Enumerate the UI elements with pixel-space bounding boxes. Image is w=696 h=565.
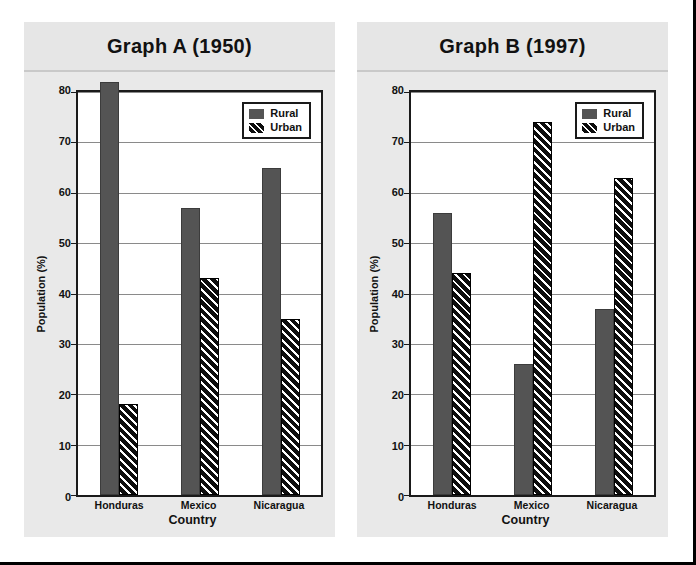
- graph-b-ytick-label: 50: [392, 237, 404, 248]
- graph-a-tick-mark: [71, 142, 77, 143]
- graph-a-bar-group: [181, 92, 219, 495]
- graph-a-tick-mark: [71, 495, 77, 496]
- graph-a-plot: RuralUrban: [76, 90, 323, 497]
- legend-item-rural: Rural: [249, 108, 302, 119]
- graph-b-tick-mark: [404, 344, 410, 345]
- graph-a-body: Population (%) 01020304050607080 RuralUr…: [24, 72, 335, 537]
- legend-swatch-rural-icon: [582, 109, 597, 119]
- graph-a-xaxis-title-row: Country: [32, 513, 323, 531]
- graph-b-tick-mark: [404, 142, 410, 143]
- graph-a-plot-wrap: RuralUrban: [76, 90, 323, 497]
- legend-swatch-urban-icon: [249, 123, 264, 133]
- graph-a-tick-mark: [71, 344, 77, 345]
- graph-b-xticks: HondurasMexicoNicaragua: [409, 497, 656, 513]
- graph-a-tick-mark: [71, 193, 77, 194]
- graph-b-ytick-label: 80: [392, 85, 404, 96]
- bar-nicaragua-rural: [595, 309, 614, 495]
- bar-honduras-urban: [119, 404, 138, 495]
- graph-b-bars: [411, 92, 654, 495]
- graph-a-y-axis-label: Population (%): [35, 255, 47, 332]
- graph-b-x-axis-label: Country: [365, 513, 656, 531]
- graph-a-ytick-label: 20: [59, 390, 71, 401]
- graph-b-body: Population (%) 01020304050607080 RuralUr…: [357, 72, 668, 537]
- graph-b-tick-mark: [404, 394, 410, 395]
- graph-b-ytick-label: 30: [392, 339, 404, 350]
- xtick-label-nicaragua: Nicaragua: [254, 499, 305, 511]
- graph-b-ytick-label: 40: [392, 288, 404, 299]
- graph-b-tick-mark: [404, 243, 410, 244]
- graph-a-ytick-label: 60: [59, 186, 71, 197]
- legend-label-rural: Rural: [270, 108, 298, 119]
- legend-label-urban: Urban: [270, 122, 302, 133]
- graph-a-bars: [78, 92, 321, 495]
- graph-b-title: Graph B (1997): [439, 35, 585, 58]
- bar-mexico-rural: [181, 208, 200, 495]
- graph-b-legend: RuralUrban: [575, 102, 644, 139]
- graph-b-tick-mark: [404, 294, 410, 295]
- graph-a-title: Graph A (1950): [107, 35, 252, 58]
- graph-a-tick-mark: [71, 92, 77, 93]
- bar-nicaragua-rural: [262, 168, 281, 495]
- legend-swatch-urban-icon: [582, 123, 597, 133]
- graph-a-y-axis-label-text: Population (%): [35, 255, 47, 332]
- graph-b-ytick-label: 0: [398, 492, 404, 503]
- graph-b-chart-area: Population (%) 01020304050607080 RuralUr…: [365, 90, 656, 497]
- graph-b-bar-group: [433, 92, 471, 495]
- bar-honduras-urban: [452, 273, 471, 495]
- bar-honduras-rural: [100, 82, 119, 495]
- graph-a-ylabel-col: Population (%): [32, 90, 50, 497]
- xtick-label-nicaragua: Nicaragua: [587, 499, 638, 511]
- graph-b-bar-group: [514, 92, 552, 495]
- graph-b-plot: RuralUrban: [409, 90, 656, 497]
- graph-a-ytick-label: 50: [59, 237, 71, 248]
- graph-a-ytick-label: 80: [59, 85, 71, 96]
- graph-b-xaxis-title-row: Country: [365, 513, 656, 531]
- xtick-label-honduras: Honduras: [95, 499, 144, 511]
- graph-b-tick-mark: [404, 92, 410, 93]
- graph-b-ytick-label: 70: [392, 135, 404, 146]
- graph-a-xticks: HondurasMexicoNicaragua: [76, 497, 323, 513]
- graph-b-ytick-label: 60: [392, 186, 404, 197]
- graph-a-x-axis-label: Country: [32, 513, 323, 531]
- bar-mexico-rural: [514, 364, 533, 495]
- graph-a-tick-mark: [71, 445, 77, 446]
- bar-nicaragua-urban: [281, 319, 300, 495]
- xtick-label-mexico: Mexico: [514, 499, 550, 511]
- legend-label-rural: Rural: [603, 108, 631, 119]
- graph-b-ytick-label: 20: [392, 390, 404, 401]
- graph-a-chart-area: Population (%) 01020304050607080 RuralUr…: [32, 90, 323, 497]
- xtick-label-honduras: Honduras: [428, 499, 477, 511]
- graph-a-ytick-label: 40: [59, 288, 71, 299]
- graph-b-y-axis-label-text: Population (%): [368, 255, 380, 332]
- legend-item-urban: Urban: [582, 122, 635, 133]
- bar-mexico-urban: [533, 122, 552, 495]
- graph-b-ylabel-col: Population (%): [365, 90, 383, 497]
- graph-a-tick-mark: [71, 394, 77, 395]
- graph-b-tick-mark: [404, 445, 410, 446]
- graph-b-y-axis-label: Population (%): [368, 255, 380, 332]
- xtick-label-mexico: Mexico: [181, 499, 217, 511]
- graph-b-bar-group: [595, 92, 633, 495]
- graph-a-tick-mark: [71, 294, 77, 295]
- graph-b-title-band: Graph B (1997): [357, 22, 668, 72]
- graph-a-tick-mark: [71, 243, 77, 244]
- graph-a-bar-group: [100, 92, 138, 495]
- graph-b-ytick-label: 10: [392, 441, 404, 452]
- graph-a-ytick-label: 70: [59, 135, 71, 146]
- graph-b-tick-mark: [404, 495, 410, 496]
- graph-a-ytick-label: 30: [59, 339, 71, 350]
- graph-b-xaxis-row: HondurasMexicoNicaragua: [365, 497, 656, 513]
- graph-a-ytick-label: 0: [65, 492, 71, 503]
- bar-mexico-urban: [200, 278, 219, 495]
- graphs-container: Graph A (1950) Population (%) 0102030405…: [0, 0, 696, 565]
- graph-panel-a: Graph A (1950) Population (%) 0102030405…: [24, 22, 335, 537]
- graph-panel-b: Graph B (1997) Population (%) 0102030405…: [357, 22, 668, 537]
- graph-a-ytick-label: 10: [59, 441, 71, 452]
- legend-swatch-rural-icon: [249, 109, 264, 119]
- legend-item-rural: Rural: [582, 108, 635, 119]
- graph-b-tick-mark: [404, 193, 410, 194]
- bar-honduras-rural: [433, 213, 452, 495]
- bar-nicaragua-urban: [614, 178, 633, 495]
- graph-a-bar-group: [262, 92, 300, 495]
- legend-item-urban: Urban: [249, 122, 302, 133]
